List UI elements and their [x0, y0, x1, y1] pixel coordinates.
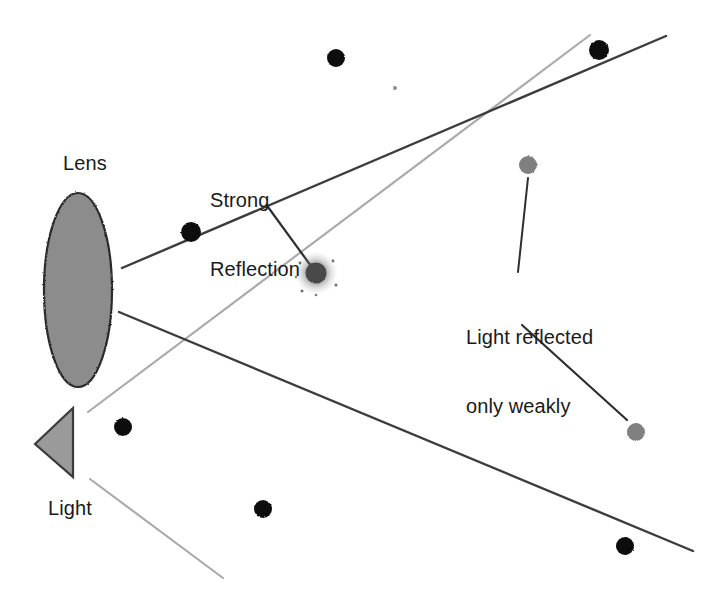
leader-weak-reflection-upper — [518, 178, 528, 272]
glow-speck — [315, 294, 318, 297]
lens-shape — [44, 193, 112, 387]
strong-reflection-label-line1: Strong — [210, 189, 300, 212]
glow-speck — [301, 290, 304, 293]
ray-lens-upper-dark — [122, 36, 666, 268]
strong-reflection-core — [306, 263, 327, 284]
particle-near-lens — [181, 222, 201, 242]
particle-strong-reflection — [294, 251, 338, 296]
glow-speck — [335, 284, 338, 287]
light-label: Light — [48, 497, 92, 520]
particle-bottom-center — [254, 500, 272, 518]
weak-reflection-label-line2: only weakly — [466, 395, 593, 418]
strong-reflection-label: Strong Reflection — [210, 143, 300, 327]
particle-bottom-right — [616, 537, 634, 555]
particle-top-center — [327, 49, 345, 67]
light-source-shape — [35, 408, 73, 477]
particle-weak-upper — [519, 156, 537, 174]
lens-label: Lens — [63, 152, 107, 175]
particle-left-lower — [114, 418, 132, 436]
lens-reflection-diagram: Lens Light Strong Reflection Light refle… — [0, 0, 727, 608]
diagram-canvas — [0, 0, 727, 608]
ray-group — [88, 35, 693, 578]
ray-lens-lower-dark — [119, 312, 693, 551]
strong-reflection-label-line2: Reflection — [210, 258, 300, 281]
particle-top-right — [589, 40, 609, 60]
weak-reflection-label-line1: Light reflected — [466, 326, 593, 349]
particle-weak-lower — [627, 423, 645, 441]
particle-speck — [393, 86, 397, 90]
glow-speck — [332, 260, 335, 263]
weak-reflection-label: Light reflected only weakly — [466, 280, 593, 464]
ray-light-lower-gray — [90, 479, 223, 578]
